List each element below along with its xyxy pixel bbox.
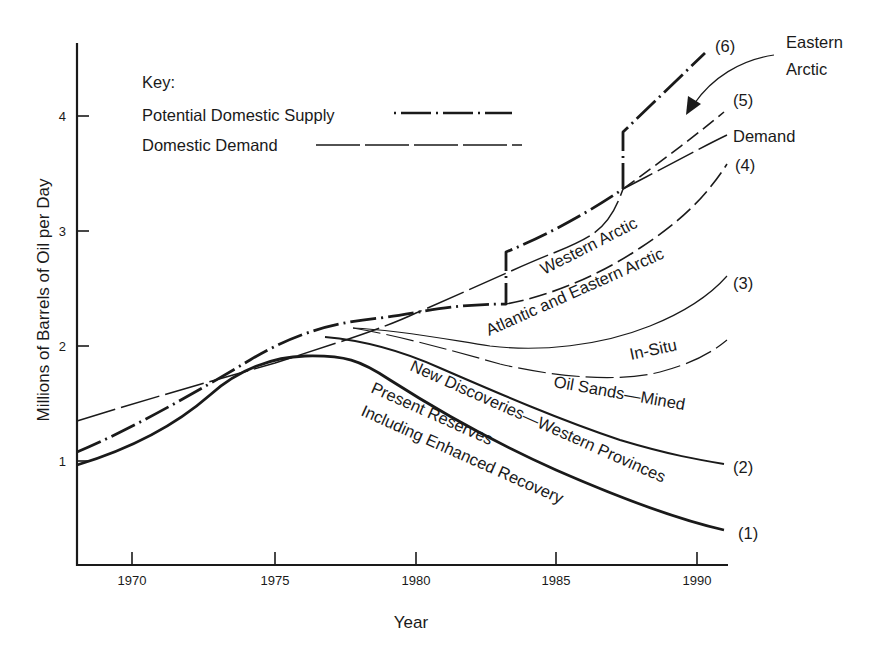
- y-tick-label: 3: [59, 224, 66, 239]
- legend-label-demand: Domestic Demand: [142, 136, 278, 154]
- label-4: (4): [735, 156, 755, 174]
- label-eastern-arctic-line1: Eastern: [786, 33, 843, 51]
- arrowhead-icon: [686, 96, 701, 115]
- legend-label-supply: Potential Domestic Supply: [142, 106, 335, 124]
- label-5: (5): [733, 91, 753, 109]
- label-demand: Demand: [733, 127, 795, 145]
- y-axis-title: Millions of Barrels of Oil per Day: [34, 178, 53, 421]
- legend-title: Key:: [142, 73, 175, 91]
- curve-5-western-arctic: [623, 112, 724, 189]
- x-tick-label: 1980: [402, 573, 431, 588]
- demand-curve: [77, 135, 727, 421]
- curve-labels: (6) Eastern Arctic (5) Demand (4) (3) (2…: [359, 33, 843, 542]
- label-eastern-arctic-line2: Arctic: [786, 60, 827, 78]
- oil-supply-demand-chart: 4 3 2 1 1970 1975 1980 1985 1990 Year Mi…: [0, 0, 882, 661]
- x-axis-title: Year: [394, 613, 429, 632]
- label-2: (2): [733, 458, 753, 476]
- y-tick-label: 1: [59, 454, 66, 469]
- label-1: (1): [738, 524, 758, 542]
- legend: Key: Potential Domestic Supply Domestic …: [142, 73, 522, 154]
- x-tick-label: 1970: [118, 573, 147, 588]
- x-tick-labels: 1970 1975 1980 1985 1990: [118, 573, 712, 588]
- y-tick-label: 2: [59, 339, 66, 354]
- label-3: (3): [733, 274, 753, 292]
- y-tick-label: 4: [59, 109, 66, 124]
- label-oil-sands-mined: Oil Sands—Mined: [552, 372, 686, 413]
- x-tick-label: 1990: [683, 573, 712, 588]
- x-tick-label: 1975: [261, 573, 290, 588]
- label-6: (6): [715, 37, 735, 55]
- y-tick-labels: 4 3 2 1: [59, 109, 66, 469]
- x-tick-label: 1985: [542, 573, 571, 588]
- label-in-situ: In-Situ: [628, 335, 678, 363]
- eastern-arctic-callout: [686, 55, 774, 115]
